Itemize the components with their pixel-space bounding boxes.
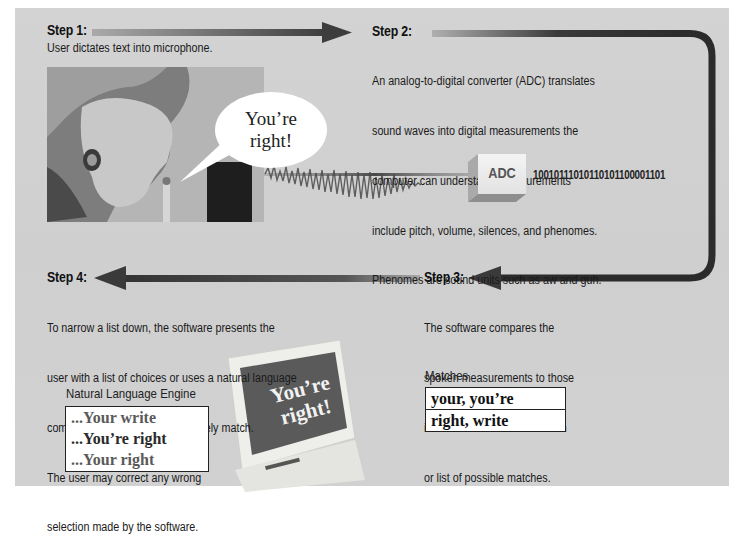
step4-line: The user may correct any wrong: [47, 470, 297, 487]
speech-bubble-shape: You’re right!: [215, 92, 327, 168]
step3-line: or list of possible matches.: [424, 470, 574, 487]
nle-list: ...Your write ...You’re right ...Your ri…: [65, 406, 209, 472]
step2-line: sound waves into digital measurements th…: [372, 123, 601, 140]
nle-item: ...Your write: [66, 407, 208, 428]
matches-label: Matches: [425, 368, 468, 383]
step1-text: User dictates text into microphone.: [47, 40, 213, 57]
step2-title: Step 2:: [372, 22, 412, 39]
step2-line: include pitch, volume, silences, and phe…: [372, 223, 601, 240]
step4-line: selection made by the software.: [47, 519, 297, 536]
nle-label: Natural Language Engine: [66, 386, 196, 401]
step4-line: To narrow a list down, the software pres…: [47, 320, 297, 337]
step4-title: Step 4:: [47, 268, 87, 285]
binary-output: 10010111010110101100001101: [533, 168, 665, 182]
nle-item: ...Your right: [66, 449, 208, 470]
step4-line: user with a list of choices or uses a na…: [47, 370, 297, 387]
nle-item: ...You’re right: [66, 428, 208, 449]
speech-bubble-line2: right!: [215, 130, 327, 152]
adc-box: ADC: [478, 154, 526, 194]
matches-table: your, you’re right, write: [425, 387, 566, 432]
step3-title: Step 3:: [424, 268, 464, 285]
adc-label: ADC: [482, 164, 523, 181]
step3-line: The software compares the: [424, 320, 574, 337]
step1-title: Step 1:: [47, 21, 87, 38]
step2-line: An analog-to-digital converter (ADC) tra…: [372, 73, 601, 90]
speech-bubble-text: You’re right!: [215, 108, 327, 152]
match-row: your, you’re: [426, 388, 565, 409]
match-row: right, write: [426, 409, 565, 431]
microphone-icon: [163, 181, 170, 222]
speech-bubble-line1: You’re: [215, 108, 327, 130]
